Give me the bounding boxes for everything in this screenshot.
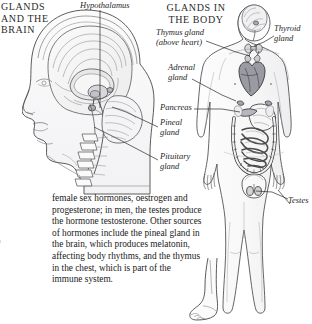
label-hypothalamus: Hypothalamus [80,1,130,11]
gutter-cut-off-fragments: s f r t p r c i [0,0,14,324]
label-thyroid-line2: gland [274,34,301,44]
label-thymus-line2: (above heart) [156,38,204,48]
gutter-fragment: p [0,236,1,248]
heading-glands-in-the-body: GLANDS IN THE BODY [160,2,232,26]
document-page: GLANDS AND THE BRAIN GLANDS IN THE BODY … [0,0,312,324]
label-testes: Testes [288,196,308,206]
label-pituitary-gland: Pituitary gland [160,152,190,171]
label-adrenal-gland: Adrenal gland [168,63,195,82]
label-thyroid-gland: Thyroid gland [274,24,301,43]
body-paragraph-text: female sex hormones, oestrogen and proge… [52,193,202,286]
label-adrenal-line2: gland [168,73,195,83]
label-thymus-gland: Thymus gland (above heart) [156,28,204,47]
label-pancreas: Pancreas [160,103,192,113]
label-pineal-line2: gland [160,128,182,138]
label-pineal-gland: Pineal gland [160,118,182,137]
body-paragraph: female sex hormones, oestrogen and proge… [52,193,202,286]
label-pituitary-line2: gland [160,162,190,172]
